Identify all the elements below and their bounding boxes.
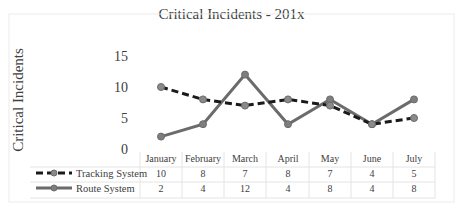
svg-text:8: 8 xyxy=(286,168,291,179)
svg-text:4: 4 xyxy=(370,168,375,179)
y-tick-15: 15 xyxy=(114,49,128,64)
table-row-tracking: 10 8 7 8 7 4 5 xyxy=(156,168,417,179)
legend-route-system: Route System xyxy=(36,183,135,194)
category-february: February xyxy=(185,153,221,164)
table-row-route: 2 4 12 4 8 4 8 xyxy=(159,183,417,194)
legend-marker-icon xyxy=(51,170,57,176)
legend-label-tracking: Tracking System xyxy=(76,168,147,179)
svg-text:4: 4 xyxy=(370,183,375,194)
legend-label-route: Route System xyxy=(76,183,135,194)
svg-text:7: 7 xyxy=(328,168,333,179)
svg-text:12: 12 xyxy=(240,183,250,194)
y-tick-5: 5 xyxy=(121,111,128,126)
category-april: April xyxy=(277,153,298,164)
svg-text:4: 4 xyxy=(286,183,291,194)
svg-text:8: 8 xyxy=(412,183,417,194)
y-tick-10: 10 xyxy=(114,80,128,95)
category-july: July xyxy=(406,153,423,164)
svg-text:7: 7 xyxy=(243,168,248,179)
chart-canvas: 15 10 5 0 xyxy=(0,0,463,209)
y-tick-0: 0 xyxy=(121,142,128,157)
category-march: March xyxy=(232,153,258,164)
svg-text:4: 4 xyxy=(201,183,206,194)
category-may: May xyxy=(321,153,339,164)
svg-text:5: 5 xyxy=(412,168,417,179)
category-january: January xyxy=(145,153,176,164)
legend-marker-icon xyxy=(51,185,57,191)
svg-text:8: 8 xyxy=(328,183,333,194)
series-route-system xyxy=(158,71,418,140)
category-june: June xyxy=(363,153,382,164)
svg-text:8: 8 xyxy=(201,168,206,179)
svg-text:2: 2 xyxy=(159,183,164,194)
legend-tracking-system: Tracking System xyxy=(36,168,147,179)
svg-text:10: 10 xyxy=(156,168,166,179)
